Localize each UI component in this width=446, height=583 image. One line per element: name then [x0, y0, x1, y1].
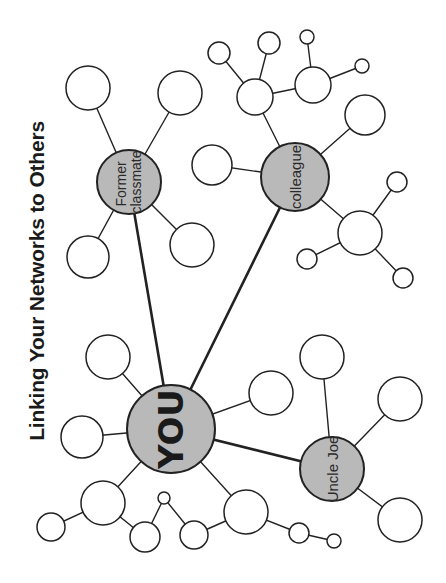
empty-node-circle[interactable] [81, 481, 125, 525]
empty-node-circle[interactable] [180, 521, 208, 549]
empty-node-circle[interactable] [387, 172, 407, 192]
empty-node-circle[interactable] [295, 67, 331, 103]
hub-uncle-joe[interactable]: Uncle Joe [300, 436, 364, 503]
empty-node-circle[interactable] [158, 71, 202, 115]
empty-node-circle[interactable] [300, 335, 344, 379]
empty-node-circle[interactable] [208, 42, 230, 64]
empty-node-circle[interactable] [378, 498, 422, 542]
hub-colleague[interactable]: colleague [261, 143, 329, 211]
network-diagram: Former classmate colleague Uncle Joe YOU [0, 0, 446, 583]
former-classmate-label-line2: classmate [128, 150, 144, 213]
former-classmate-label-line1: Former [113, 161, 129, 206]
empty-node-circle[interactable] [237, 79, 273, 115]
hub-you[interactable]: YOU [127, 385, 215, 473]
empty-node-circle[interactable] [338, 211, 382, 255]
empty-node-circle[interactable] [224, 490, 268, 534]
empty-node-circle[interactable] [258, 32, 280, 54]
uncle-joe-label: Uncle Joe [324, 436, 341, 503]
empty-node-circle[interactable] [327, 534, 341, 548]
empty-node-circle[interactable] [192, 145, 232, 185]
empty-node-circle[interactable] [393, 268, 413, 288]
hub-former-classmate[interactable]: Former classmate [97, 150, 161, 214]
empty-node-circle[interactable] [61, 416, 103, 458]
you-label: YOU [151, 389, 191, 470]
empty-node-circle[interactable] [355, 59, 369, 73]
empty-node-circle[interactable] [170, 223, 214, 267]
empty-node-circle[interactable] [289, 523, 309, 543]
empty-node-circle[interactable] [37, 513, 65, 541]
empty-node-circle[interactable] [378, 377, 422, 421]
empty-node-circle[interactable] [345, 95, 385, 135]
empty-node-circle[interactable] [67, 236, 109, 278]
empty-node-circle[interactable] [297, 249, 317, 269]
empty-node-circle[interactable] [300, 30, 314, 44]
empty-node-circle[interactable] [130, 522, 160, 552]
former-classmate-label: Former classmate [113, 150, 144, 213]
empty-node-circle[interactable] [86, 335, 130, 379]
colleague-label: colleague [287, 145, 304, 209]
empty-node-circle[interactable] [66, 66, 110, 110]
empty-node-circle[interactable] [158, 492, 170, 504]
empty-node-circle[interactable] [249, 371, 293, 415]
